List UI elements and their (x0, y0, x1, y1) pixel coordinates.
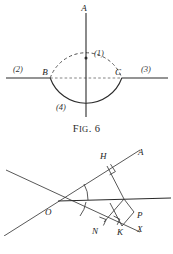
caption-6-num: . 6 (89, 123, 101, 134)
label-point-k: K (116, 227, 124, 236)
label-point-n: N (91, 226, 99, 236)
label-point-b: B (42, 67, 48, 77)
label-region-1: (1) (94, 48, 104, 58)
label-point-p: P (136, 210, 143, 220)
segment-to-p (124, 199, 134, 212)
perpendicular-h-to-bisector (107, 166, 124, 199)
label-region-2: (2) (13, 64, 23, 74)
label-region-3: (3) (141, 64, 151, 74)
upper-angle-arc (84, 184, 88, 200)
line-through-o-to-a (4, 150, 140, 236)
figure-6: A B C (1) (2) (3) (4) FIG. 6 (0, 0, 173, 140)
label-region-4: (4) (56, 102, 66, 112)
label-point-o: O (45, 207, 52, 217)
lower-angle-arc (80, 202, 86, 216)
segment-k-to-bisector (110, 203, 122, 226)
label-point-h: H (99, 151, 107, 161)
right-angle-at-n (99, 217, 106, 226)
circle-center-dot (85, 57, 88, 60)
label-point-a7: A (137, 147, 144, 157)
segment-p-to-k (122, 212, 134, 226)
figure-7-drawing: A H O P N K X (0, 140, 173, 236)
figure-6-caption: FIG. 6 (0, 124, 173, 135)
figure-6-drawing: A B C (1) (2) (3) (4) (0, 0, 173, 118)
label-point-a: A (80, 3, 87, 13)
figure-7: A H O P N K X FIG. 7 (0, 140, 173, 254)
label-point-c: C (115, 67, 122, 77)
angle-bisector-ray (58, 198, 171, 201)
caption-6-ig: IG (79, 124, 89, 134)
label-point-x: X (136, 224, 143, 234)
figure-page: A B C (1) (2) (3) (4) FIG. 6 (0, 0, 173, 254)
